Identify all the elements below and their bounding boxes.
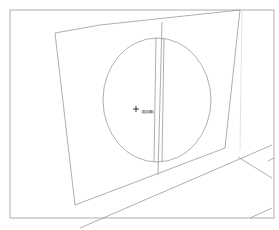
panel-left-edge xyxy=(55,33,75,205)
viewport-frame xyxy=(10,10,274,218)
floor-line-2 xyxy=(238,157,272,178)
floor-line-4 xyxy=(268,158,274,161)
split-line-2 xyxy=(154,38,156,162)
panel-bottom-edge xyxy=(75,148,225,205)
panel-right-edge xyxy=(225,10,240,148)
split-line-3 xyxy=(162,38,164,162)
floor-line-1 xyxy=(80,145,272,228)
circle-opening xyxy=(103,38,211,162)
crosshair-plus-icon xyxy=(133,106,139,112)
wireframe-scene xyxy=(0,0,279,230)
floor-line-3 xyxy=(250,208,272,218)
panel-back-edge xyxy=(240,10,242,150)
3d-model-viewport[interactable]: 端点/圆心 xyxy=(0,0,279,230)
inference-tooltip: 端点/圆心 xyxy=(141,110,156,114)
split-line-1 xyxy=(158,22,162,175)
panel-left-top-edge xyxy=(55,25,100,33)
panel-top-edge xyxy=(100,10,240,25)
